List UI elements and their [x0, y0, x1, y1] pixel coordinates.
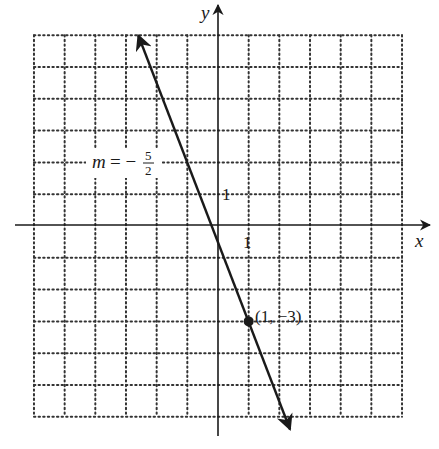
y-axis-label: y: [199, 2, 210, 23]
point-label: (1, −3): [255, 307, 301, 326]
y-tick-label-1: 1: [222, 185, 231, 204]
x-axis-label: x: [414, 230, 424, 251]
coordinate-plane: y x 1 1 (1, −3) m = − 5 2: [0, 0, 439, 449]
slope-equals-minus: = −: [110, 151, 136, 172]
line-with-slope: [138, 35, 290, 429]
slope-numerator: 5: [145, 148, 152, 163]
graph-figure: y x 1 1 (1, −3) m = − 5 2: [0, 0, 439, 449]
slope-m: m: [92, 151, 106, 172]
point-1-neg3: [244, 316, 254, 326]
x-tick-label-1: 1: [243, 233, 252, 252]
slope-denominator: 2: [145, 163, 152, 178]
